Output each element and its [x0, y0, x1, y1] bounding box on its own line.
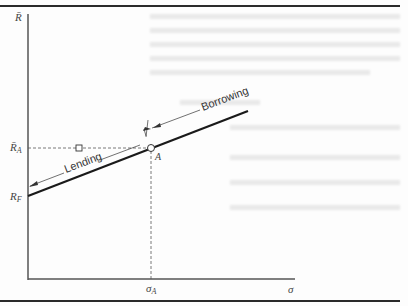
borrowing-label: Borrowing — [199, 84, 250, 113]
lending-arrow-line — [100, 145, 140, 160]
sigma-a-label: σA — [146, 282, 156, 296]
rf-label: RF — [9, 190, 22, 204]
combination-line — [28, 111, 248, 196]
y-axis-label: R̄ — [14, 11, 22, 23]
borrowing-arrowhead-icon — [153, 123, 161, 128]
square-marker — [76, 145, 82, 151]
lending-label: Lending — [62, 150, 103, 175]
x-axis-label: σ — [288, 283, 294, 295]
point-a-marker — [148, 145, 155, 152]
ra-label: R̄A — [9, 141, 22, 155]
point-a-label: A — [154, 151, 162, 162]
lending-arrowhead-icon — [29, 181, 38, 187]
capital-market-line-diagram: R̄ σ R̄A RF σA A Lending Borrowing — [0, 0, 408, 306]
